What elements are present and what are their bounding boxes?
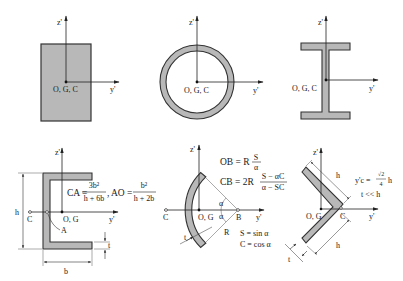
- dim-t-arrow-2: [302, 251, 307, 256]
- z-axis-label: z': [313, 148, 319, 157]
- formula-lhs: y'c =: [355, 176, 371, 185]
- shear-center-marker: [165, 209, 168, 212]
- arc-formula: OB = R S α CB = 2R S − αC α − SC S = sin…: [220, 153, 287, 249]
- panel-arc: α α z' y' O, G C B R t OB = R S α CB = 2…: [163, 145, 287, 249]
- dim-h-top-ext-2: [344, 196, 351, 203]
- channel-section: [43, 173, 92, 249]
- origin-label: O, G: [306, 212, 322, 221]
- y-axis-label: y': [369, 212, 375, 221]
- point-a-marker: [46, 211, 49, 214]
- formula-ao-den: h + 2b: [134, 194, 155, 203]
- formula-cb-lhs: CB = 2R: [220, 177, 255, 187]
- origin-dot: [325, 79, 328, 82]
- angle-label-top: α: [219, 199, 224, 208]
- origin-label: O, G: [63, 215, 79, 224]
- panel-rectangle: z' y' O, G, C: [41, 16, 119, 121]
- formula-ca-num: 3b²: [89, 181, 100, 190]
- panel-angle: z' y' O, G C h h t y'c = √2 4 h t << h: [285, 148, 392, 264]
- formula-ca-den: h + 6b: [84, 194, 105, 203]
- dim-h-label: h: [15, 208, 19, 217]
- formula-ob-num: S: [254, 153, 258, 162]
- angle-label-bottom: α: [219, 212, 224, 221]
- shear-center-marker: [340, 207, 343, 210]
- dim-h-bottom-label: h: [336, 241, 340, 250]
- origin-label: O, G, C: [184, 86, 209, 95]
- condition: t << h: [361, 190, 380, 199]
- formula-ob-den: α: [254, 163, 259, 172]
- y-axis-label: y': [109, 215, 115, 224]
- panel-ring: z' y' O, G, C: [160, 16, 263, 119]
- formula-rhs: h: [388, 176, 392, 185]
- def-s: S = sin α: [240, 229, 269, 238]
- origin-dot: [61, 211, 64, 214]
- z-axis-label: z': [189, 18, 195, 27]
- panel-channel: z' y' O, G C A h b t CA = 3b² h + 6b , A…: [15, 148, 156, 276]
- shear-center-marker: [29, 211, 32, 214]
- origin-label: O, G: [198, 213, 214, 222]
- formula-ob-lhs: OB = R: [220, 157, 250, 167]
- shear-center-label: C: [27, 215, 32, 224]
- origin-label: O, G, C: [53, 85, 78, 94]
- formula-ao-lhs: AO =: [111, 188, 132, 198]
- y-axis-label: y': [256, 213, 262, 222]
- dim-h-top-label: h: [336, 171, 340, 180]
- formula-num: √2: [378, 171, 384, 177]
- z-axis-label: z': [55, 148, 61, 157]
- z-axis-label: z': [57, 18, 63, 27]
- formula-cb-num: S − αC: [262, 172, 285, 181]
- z-axis-label: z': [190, 145, 196, 154]
- y-axis-label: y': [110, 85, 116, 94]
- y-axis-label: y': [369, 84, 375, 93]
- formula-cb-den: α − SC: [262, 183, 285, 192]
- shear-center-label: C: [163, 213, 168, 222]
- y-axis-label: y': [253, 86, 259, 95]
- radius-label: R: [224, 228, 230, 237]
- cross-sections-diagram: z' y' O, G, C z' y' O, G, C z' y' O, G, …: [0, 0, 403, 281]
- origin-label: O, G, C: [292, 84, 317, 93]
- dim-h-top-ext-1: [306, 160, 312, 166]
- point-a-label: A: [61, 226, 67, 235]
- def-c: C = cos α: [240, 240, 272, 249]
- channel-formula: CA = 3b² h + 6b , AO = b² h + 2b: [67, 181, 156, 203]
- origin-dot: [65, 81, 68, 84]
- dim-t-label: t: [108, 241, 111, 250]
- formula-ao-num: b²: [141, 181, 148, 190]
- angle-formula: y'c = √2 4 h t << h: [355, 171, 392, 199]
- point-b-marker: [237, 209, 240, 212]
- formula-sep: ,: [107, 188, 109, 198]
- dim-t-arrow: [186, 237, 193, 241]
- origin-dot: [320, 208, 323, 211]
- origin-dot: [198, 209, 201, 212]
- z-axis-label: z': [318, 18, 324, 27]
- dim-t-arrow-1: [290, 244, 296, 249]
- dim-t-label: t: [288, 255, 291, 264]
- formula-den: 4: [380, 181, 383, 187]
- origin-dot: [196, 81, 199, 84]
- panel-i-beam: z' y' O, G, C: [292, 16, 378, 119]
- point-b-label: B: [236, 213, 241, 222]
- dim-b-label: b: [64, 267, 68, 276]
